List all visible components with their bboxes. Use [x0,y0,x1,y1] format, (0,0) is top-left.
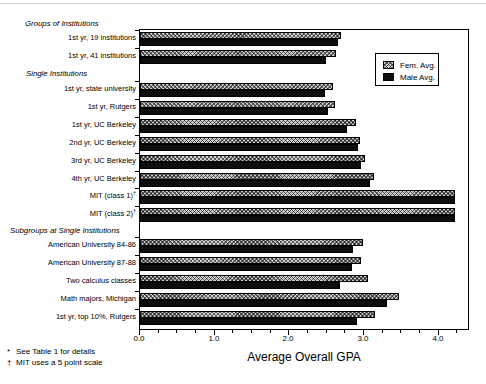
male-avg-bar [140,90,325,97]
x-minor-tick [419,330,420,333]
category-label: Two calculus classes [0,276,136,286]
category-label: 1st yr, 41 institutions [0,51,136,61]
male-avg-bar [140,57,326,64]
male-avg-bar [140,144,358,151]
legend: Fem. Avg. Male Avg. [375,53,439,86]
legend-entry-male: Male Avg. [383,71,438,83]
group-header: Subgroups at Single Institutions [10,226,120,235]
fem-avg-bar [140,155,365,162]
x-tick-label: 0.0 [124,334,154,343]
male-avg-bar [140,215,455,222]
fem-avg-bar [140,311,375,318]
category-tick [135,48,139,49]
chart-figure: Fem. Avg. Male Avg. Average Overall GPA … [0,0,486,384]
x-axis-title: Average Overall GPA [139,350,469,364]
category-label: American University 87-88 [0,258,136,268]
category-tick [135,237,139,238]
page-edge-line [0,3,486,4]
category-label: MIT (class 2)† [0,209,136,219]
x-minor-tick [307,330,308,333]
category-label: MIT (class 1)† [0,191,136,201]
male-avg-bar [140,162,361,169]
category-tick [135,206,139,207]
dagger-note: † [133,190,136,196]
fem-avg-bar [140,275,368,282]
dagger-note: † [133,208,136,214]
x-tick-label: 1.0 [199,334,229,343]
fem-avg-bar [140,257,361,264]
x-tick-label: 2.0 [273,334,303,343]
category-label: 1st yr, UC Berkeley [0,120,136,130]
category-label: 2nd yr, UC Berkeley [0,138,136,148]
male-avg-swatch-icon [383,73,394,81]
category-label: 4th yr, UC Berkeley [0,174,136,184]
category-tick [135,309,139,310]
category-label: American University 84-86 [0,240,136,250]
fem-avg-swatch-icon [383,61,394,69]
category-tick [135,273,139,274]
category-tick [135,171,139,172]
fem-avg-bar [140,208,455,215]
category-tick [135,153,139,154]
x-minor-tick [456,330,457,333]
category-label: 1st yr, state university [0,84,136,94]
category-tick [135,99,139,100]
category-tick [135,117,139,118]
group-header: Single Institutions [26,69,87,78]
male-avg-bar [140,126,347,133]
category-tick [135,188,139,189]
x-minor-tick [251,330,252,333]
footnote-see-table: *See Table 1 for details [7,347,95,356]
category-label: 1st yr, Rutgers [0,102,136,112]
asterisk-marker: * [7,347,16,356]
category-label: 3rd yr, UC Berkeley [0,156,136,166]
fem-avg-bar [140,101,335,108]
male-avg-bar [140,246,353,253]
male-avg-bar [140,300,387,307]
category-tick [135,30,139,31]
x-minor-tick [344,330,345,333]
male-avg-bar [140,318,357,325]
fem-avg-bar [140,50,336,57]
fem-avg-bar [140,137,360,144]
x-minor-tick [400,330,401,333]
fem-avg-bar [140,32,341,39]
male-avg-bar [140,39,338,46]
legend-entry-fem: Fem. Avg. [383,59,438,71]
footnote-text: MIT uses a 5 point scale [16,358,103,367]
male-avg-bar [140,282,340,289]
footnote-text: See Table 1 for details [16,347,95,356]
x-minor-tick [326,330,327,333]
category-tick [135,135,139,136]
x-minor-tick [195,330,196,333]
fem-avg-bar [140,190,455,197]
category-label: Math majors, Michigan [0,294,136,304]
fem-avg-bar [140,83,333,90]
fem-avg-bar [140,293,399,300]
fem-avg-bar [140,119,356,126]
fem-avg-bar [140,173,374,180]
category-tick [135,255,139,256]
legend-male-label: Male Avg. [400,73,435,82]
group-header: Groups of Institutions [25,19,99,28]
x-minor-tick [270,330,271,333]
x-minor-tick [382,330,383,333]
male-avg-bar [140,264,352,271]
x-tick-label: 3.0 [348,334,378,343]
x-minor-tick [176,330,177,333]
x-minor-tick [158,330,159,333]
footnote-mit-scale: †MIT uses a 5 point scale [7,358,103,367]
male-avg-bar [140,197,455,204]
x-tick-label: 4.0 [423,334,453,343]
legend-fem-label: Fem. Avg. [400,61,436,70]
male-avg-bar [140,108,328,115]
dagger-marker: † [7,358,16,367]
male-avg-bar [140,180,370,187]
category-tick [135,81,139,82]
category-tick [135,291,139,292]
x-minor-tick [232,330,233,333]
category-label: 1st yr, 19 institutions [0,33,136,43]
fem-avg-bar [140,239,363,246]
category-label: 1st yr, top 10%, Rutgers [0,312,136,322]
